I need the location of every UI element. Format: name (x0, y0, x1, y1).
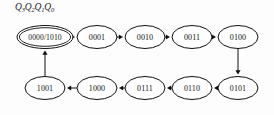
edge-arrowhead (119, 85, 123, 90)
nodes-layer: 0000/10100001001000110100010101100111100… (17, 26, 258, 100)
state-node-label: 0111 (137, 84, 153, 93)
edge-n6-to-n7 (167, 85, 172, 90)
edge-n2-to-n3 (165, 34, 170, 39)
state-node-label: 0001 (89, 33, 105, 42)
edge-arrowhead (167, 85, 171, 90)
state-node-label: 0000/1010 (28, 33, 61, 42)
state-node-label: 0011 (184, 33, 200, 42)
state-node-label: 0100 (230, 33, 246, 42)
state-node[interactable]: 0100 (218, 26, 258, 49)
edge-n1-to-n2 (117, 34, 123, 39)
edge-n7-to-n8 (119, 85, 125, 90)
state-node[interactable]: 0111 (125, 77, 165, 100)
edge-arrowhead (67, 85, 71, 90)
state-node[interactable]: 0001 (77, 26, 117, 49)
state-node[interactable]: 0110 (172, 77, 212, 100)
edge-n9-to-n0 (42, 51, 47, 77)
state-node[interactable]: 1001 (25, 77, 65, 100)
state-node-label: 1001 (37, 84, 53, 93)
state-node[interactable]: 1000 (77, 77, 117, 100)
state-node-label: 0101 (230, 84, 246, 93)
edge-arrowhead (42, 51, 47, 55)
state-node[interactable]: 0000/1010 (17, 26, 73, 49)
edge-arrowhead (235, 70, 240, 74)
state-node[interactable]: 0010 (125, 26, 165, 49)
state-node-label: 0110 (184, 84, 200, 93)
state-node[interactable]: 0011 (172, 26, 212, 49)
state-node-label: 1000 (89, 84, 105, 93)
state-diagram-canvas: Q3Q2Q1Q0 0000/10100001001000110100010101… (0, 0, 274, 115)
edge-n8-to-n9 (67, 85, 77, 90)
edge-arrowhead (119, 34, 123, 39)
state-node[interactable]: 0101 (218, 77, 258, 100)
edge-arrowhead (166, 34, 170, 39)
state-node-label: 0010 (137, 33, 153, 42)
edge-n4-to-n5 (235, 49, 240, 75)
state-transition-graph: 0000/10100001001000110100010101100111100… (0, 0, 274, 115)
